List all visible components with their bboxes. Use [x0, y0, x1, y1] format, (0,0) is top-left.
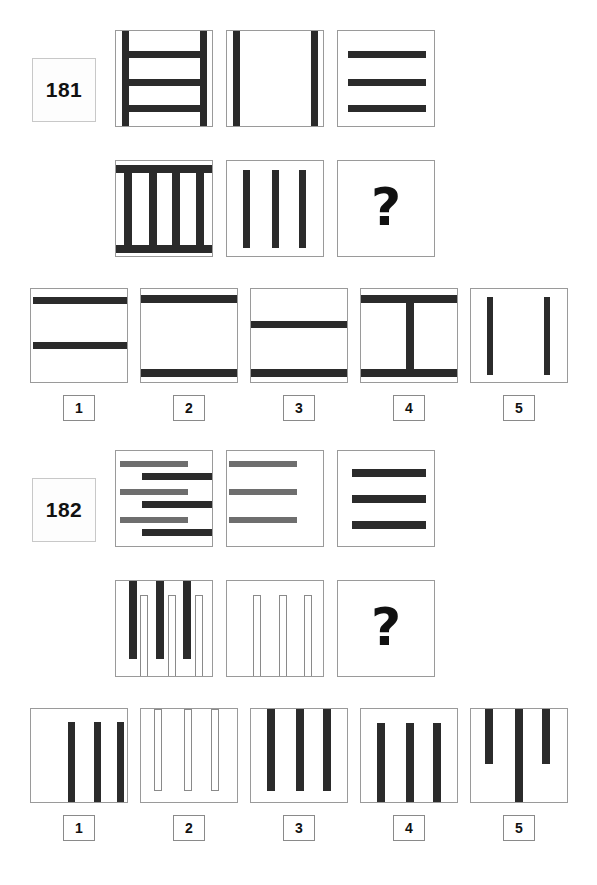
- vertical-bar: [299, 170, 306, 248]
- answer-option-3[interactable]: [250, 288, 348, 383]
- answer-option-4-label[interactable]: 4: [393, 395, 425, 421]
- horizontal-bar: [348, 105, 426, 112]
- vertical-bar: [515, 709, 523, 803]
- answer-option-2[interactable]: [140, 708, 238, 803]
- vertical-bar: [267, 709, 275, 791]
- vertical-bar: [124, 165, 132, 253]
- cell-r2c3-answer[interactable]: ?: [337, 580, 435, 677]
- horizontal-bar: [348, 51, 426, 58]
- item-number-badge: 182: [32, 478, 96, 542]
- vertical-bar: [94, 722, 101, 803]
- vertical-bar: [195, 595, 203, 677]
- answer-option-4[interactable]: [360, 288, 458, 383]
- vertical-bar: [323, 709, 331, 791]
- answer-option-1[interactable]: [30, 708, 128, 803]
- vertical-bar: [149, 165, 157, 253]
- horizontal-bar: [122, 79, 207, 86]
- question-mark: ?: [338, 161, 434, 256]
- vertical-bar: [68, 722, 75, 803]
- cell-r2c1: [115, 160, 213, 257]
- horizontal-bar: [33, 297, 127, 304]
- vertical-bar: [406, 723, 414, 803]
- horizontal-bar: [229, 489, 297, 495]
- horizontal-bar: [352, 495, 426, 503]
- item-number-badge: 181: [32, 58, 96, 122]
- horizontal-bar: [348, 79, 426, 86]
- horizontal-bar: [120, 461, 188, 467]
- answer-option-2-label[interactable]: 2: [173, 395, 205, 421]
- horizontal-bar: [141, 295, 238, 303]
- vertical-bar: [485, 709, 493, 764]
- vertical-bar: [542, 709, 550, 764]
- answer-option-3-label[interactable]: 3: [283, 815, 315, 841]
- cell-r1c1: [115, 30, 213, 127]
- cell-r2c2: [226, 580, 324, 677]
- horizontal-bar: [120, 489, 188, 495]
- vertical-bar: [184, 709, 192, 791]
- vertical-bar: [168, 595, 176, 677]
- vertical-bar: [172, 165, 180, 253]
- question-mark: ?: [338, 581, 434, 676]
- answer-option-2-label[interactable]: 2: [173, 815, 205, 841]
- vertical-bar: [304, 595, 312, 677]
- vertical-bar: [544, 297, 550, 375]
- cell-r2c1: [115, 580, 213, 677]
- answer-option-5-label[interactable]: 5: [503, 395, 535, 421]
- vertical-bar: [433, 723, 441, 803]
- vertical-bar: [272, 170, 279, 248]
- puzzle-item-181: 181?12345: [0, 30, 597, 435]
- worksheet-page: 181?12345 182?12345: [0, 0, 597, 885]
- puzzle-item-182: 182?12345: [0, 450, 597, 855]
- cell-r1c3: [337, 450, 435, 547]
- vertical-bar: [279, 595, 287, 677]
- answer-option-1-label[interactable]: 1: [63, 395, 95, 421]
- vertical-bar: [487, 297, 493, 375]
- horizontal-bar: [122, 51, 207, 58]
- vertical-bar: [154, 709, 162, 791]
- answer-option-2[interactable]: [140, 288, 238, 383]
- vertical-bar: [311, 31, 318, 127]
- vertical-bar: [117, 722, 124, 803]
- horizontal-bar: [142, 473, 212, 480]
- horizontal-bar: [251, 321, 348, 328]
- cell-r1c2: [226, 30, 324, 127]
- answer-option-4[interactable]: [360, 708, 458, 803]
- vertical-bar: [406, 295, 414, 377]
- cell-r1c3: [337, 30, 435, 127]
- horizontal-bar: [229, 461, 297, 467]
- horizontal-bar: [142, 529, 212, 536]
- answer-option-3[interactable]: [250, 708, 348, 803]
- vertical-bar: [243, 170, 250, 248]
- horizontal-bar: [33, 342, 127, 349]
- horizontal-bar: [352, 521, 426, 529]
- vertical-bar: [129, 581, 137, 659]
- horizontal-bar: [251, 369, 348, 377]
- vertical-bar: [233, 31, 240, 127]
- vertical-bar: [296, 709, 304, 791]
- vertical-bar: [211, 709, 219, 791]
- horizontal-bar: [120, 517, 188, 523]
- answer-option-1-label[interactable]: 1: [63, 815, 95, 841]
- vertical-bar: [377, 723, 385, 803]
- vertical-bar: [183, 581, 191, 659]
- answer-option-4-label[interactable]: 4: [393, 815, 425, 841]
- answer-option-5-label[interactable]: 5: [503, 815, 535, 841]
- horizontal-bar: [122, 105, 207, 112]
- answer-option-5[interactable]: [470, 288, 568, 383]
- horizontal-bar: [142, 501, 212, 508]
- answer-option-1[interactable]: [30, 288, 128, 383]
- vertical-bar: [196, 165, 204, 253]
- cell-r1c1: [115, 450, 213, 547]
- vertical-bar: [253, 595, 261, 677]
- cell-r2c3-answer[interactable]: ?: [337, 160, 435, 257]
- cell-r2c2: [226, 160, 324, 257]
- answer-option-5[interactable]: [470, 708, 568, 803]
- horizontal-bar: [229, 517, 297, 523]
- horizontal-bar: [352, 469, 426, 477]
- answer-option-3-label[interactable]: 3: [283, 395, 315, 421]
- vertical-bar: [156, 581, 164, 659]
- vertical-bar: [140, 595, 148, 677]
- horizontal-bar: [141, 369, 238, 377]
- cell-r1c2: [226, 450, 324, 547]
